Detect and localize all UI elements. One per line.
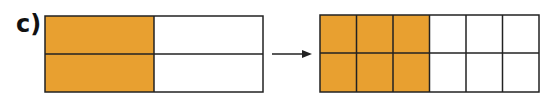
right-fraction-model — [320, 15, 539, 92]
cell-shaded — [45, 16, 154, 54]
cell-empty — [154, 54, 263, 92]
left-fraction-model — [45, 16, 263, 92]
cell-empty — [154, 16, 263, 54]
right-arrow-icon — [272, 50, 312, 58]
cell-shaded — [45, 54, 154, 92]
fraction-diagram — [0, 0, 548, 101]
